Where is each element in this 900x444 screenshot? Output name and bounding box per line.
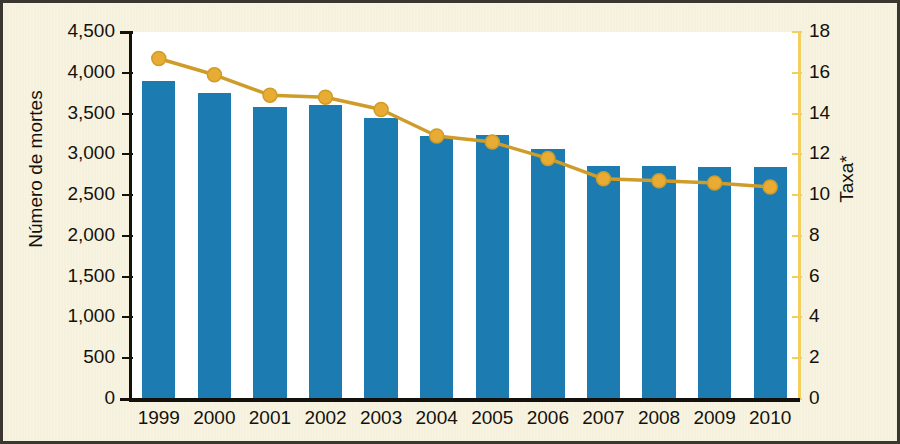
y-tick-left-3500 <box>122 113 133 115</box>
y-tick-label-right-16: 16 <box>809 61 849 83</box>
y-tick-left-4000 <box>122 72 133 74</box>
x-tick-label-2006: 2006 <box>520 407 576 429</box>
y-tick-right-6 <box>792 276 802 278</box>
y-axis-right-line <box>798 32 801 400</box>
y-tick-left-500 <box>122 357 133 359</box>
y-tick-label-left-4000: 4,000 <box>0 61 115 83</box>
x-tick-label-2008: 2008 <box>631 407 687 429</box>
rate-marker-2009 <box>708 176 722 190</box>
y-tick-label-left-1000: 1,000 <box>0 305 115 327</box>
y-tick-right-16 <box>792 72 802 74</box>
y-tick-right-2 <box>792 357 802 359</box>
y-tick-label-left-2500: 2,500 <box>0 183 115 205</box>
y-tick-label-right-18: 18 <box>809 20 849 42</box>
rate-marker-group <box>152 52 777 195</box>
y-tick-label-left-2000: 2,000 <box>0 224 115 246</box>
rate-marker-2002 <box>319 90 333 104</box>
rate-marker-2010 <box>763 180 777 194</box>
rate-marker-2008 <box>652 174 666 188</box>
x-tick-label-2003: 2003 <box>353 407 409 429</box>
x-tick-label-2009: 2009 <box>687 407 743 429</box>
rate-marker-2007 <box>597 172 611 186</box>
y-tick-right-8 <box>792 235 802 237</box>
y-tick-label-right-0: 0 <box>809 387 849 409</box>
y-tick-right-18 <box>792 31 802 33</box>
y-tick-label-left-0: 0 <box>0 387 115 409</box>
y-tick-right-12 <box>792 153 802 155</box>
y-axis-right-title: Taxa* <box>836 119 858 239</box>
y-tick-left-2000 <box>122 235 133 237</box>
plot-area <box>131 32 798 399</box>
y-tick-left-2500 <box>122 194 133 196</box>
rate-marker-2000 <box>207 68 221 82</box>
x-tick-label-2001: 2001 <box>242 407 298 429</box>
y-axis-left-title: Número de mortes <box>25 54 47 284</box>
y-tick-label-left-1500: 1,500 <box>0 265 115 287</box>
y-tick-left-1000 <box>122 316 133 318</box>
y-tick-left-4500 <box>120 31 133 34</box>
y-tick-left-3000 <box>122 153 133 155</box>
rate-marker-2003 <box>374 103 388 117</box>
rate-marker-2005 <box>485 135 499 149</box>
y-tick-left-1500 <box>122 276 133 278</box>
x-tick-label-2004: 2004 <box>409 407 465 429</box>
y-tick-label-right-6: 6 <box>809 265 849 287</box>
rate-marker-1999 <box>152 52 166 66</box>
chart-figure: 05001,0001,5002,0002,5003,0003,5004,0004… <box>0 0 900 444</box>
x-tick-label-2002: 2002 <box>298 407 354 429</box>
x-axis-line <box>129 398 800 402</box>
rate-line-series <box>131 32 798 399</box>
y-tick-right-14 <box>792 113 802 115</box>
y-axis-left-line <box>129 32 132 400</box>
x-tick-label-1999: 1999 <box>131 407 187 429</box>
y-tick-label-left-500: 500 <box>0 346 115 368</box>
x-tick-label-2010: 2010 <box>742 407 798 429</box>
y-tick-label-right-2: 2 <box>809 346 849 368</box>
y-tick-label-left-3000: 3,000 <box>0 142 115 164</box>
rate-line-path <box>159 59 770 188</box>
rate-marker-2001 <box>263 88 277 102</box>
rate-marker-2006 <box>541 151 555 165</box>
x-tick-label-2007: 2007 <box>576 407 632 429</box>
y-tick-label-left-3500: 3,500 <box>0 102 115 124</box>
y-tick-right-10 <box>792 194 802 196</box>
x-tick-label-2000: 2000 <box>187 407 243 429</box>
rate-marker-2004 <box>430 129 444 143</box>
y-tick-label-left-4500: 4,500 <box>0 20 115 42</box>
x-tick-label-2005: 2005 <box>465 407 521 429</box>
y-tick-right-4 <box>792 316 802 318</box>
y-tick-label-right-4: 4 <box>809 305 849 327</box>
